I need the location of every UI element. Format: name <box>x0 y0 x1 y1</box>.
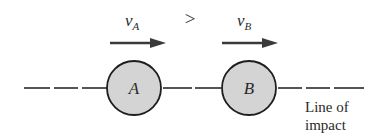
line-label-line1: Line of <box>305 99 349 115</box>
ball-b-label: B <box>244 79 255 98</box>
velocity-arrow-a <box>110 38 166 48</box>
comparison-symbol: > <box>185 8 196 29</box>
velocity-a-subscript: A <box>132 20 140 32</box>
arrow-right-icon <box>150 38 166 48</box>
ball-a-label: A <box>128 79 140 98</box>
velocity-label-b: vB <box>237 11 252 32</box>
velocity-arrow-b <box>222 38 278 48</box>
collision-diagram: A B vA > vB Line of impact <box>0 0 382 140</box>
velocity-b-subscript: B <box>245 20 252 32</box>
velocity-label-a: vA <box>125 11 140 32</box>
arrow-right-icon <box>262 38 278 48</box>
line-of-impact-label: Line of impact <box>305 99 352 133</box>
line-label-line2: impact <box>305 117 347 133</box>
ball-b: B <box>222 61 276 115</box>
ball-a: A <box>107 61 161 115</box>
